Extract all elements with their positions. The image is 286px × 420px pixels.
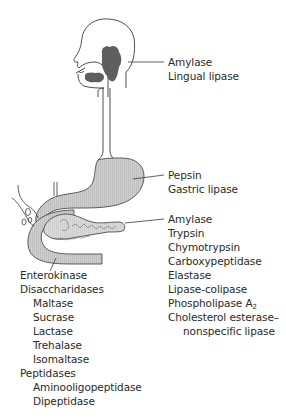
enzyme-maltase: Maltase [20,296,142,310]
enzyme-dipeptidase: Dipeptidase [20,394,142,408]
enzyme-lactase: Lactase [20,324,142,338]
enzyme-group-peptidases: Peptidases [20,366,142,380]
sublingual-gland [85,72,104,82]
enzyme-isomaltase: Isomaltase [20,352,142,366]
gastric-enzymes-label: Pepsin Gastric lipase [168,168,238,196]
enzyme-amylase-pancreatic: Amylase [168,212,279,226]
enzyme-trypsin: Trypsin [168,226,279,240]
leader-line-pancreas [125,219,164,223]
enzyme-lipase-colipase: Lipase-colipase [168,282,279,296]
enzyme-trehalase: Trehalase [20,338,142,352]
pancreatic-enzymes-label: Amylase Trypsin Chymotrypsin Carboxypept… [168,212,279,338]
enzyme-sucrase: Sucrase [20,310,142,324]
enzyme-amylase-salivary: Amylase [168,55,239,69]
enzyme-elastase: Elastase [168,268,279,282]
salivary-gland [102,46,121,81]
salivary-enzymes-label: Amylase Lingual lipase [168,55,239,83]
enzyme-lingual-lipase: Lingual lipase [168,69,239,83]
enzyme-nonspecific-lipase: nonspecific lipase [168,324,279,338]
enzyme-group-disaccharidases: Disaccharidases [20,282,142,296]
enzyme-phospholipase-a2: Phospholipase A2 [168,296,279,310]
enzyme-cholesterol-esterase: Cholesterol esterase– [168,310,279,324]
pancreas [44,214,125,239]
intestinal-enzymes-label: Enterokinase Disaccharidases Maltase Suc… [20,268,142,408]
enzyme-enterokinase: Enterokinase [20,268,142,282]
esophagus [98,88,116,160]
enzyme-chymotrypsin: Chymotrypsin [168,240,279,254]
enzyme-gastric-lipase: Gastric lipase [168,182,238,196]
enzyme-aminooligopeptidase: Aminooligopeptidase [20,380,142,394]
enzyme-carboxypeptidase: Carboxypeptidase [168,254,279,268]
enzyme-pepsin: Pepsin [168,168,238,182]
